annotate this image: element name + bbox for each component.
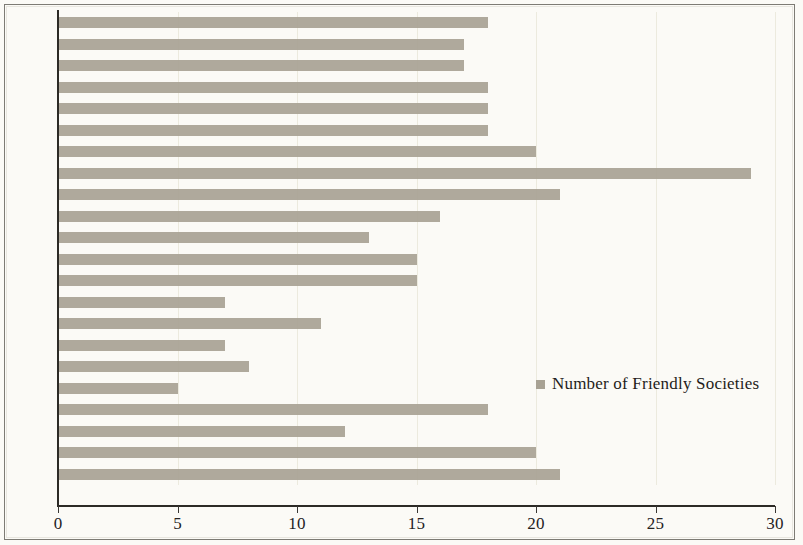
bar (58, 125, 488, 136)
bar-row: 1858 (58, 399, 767, 421)
bar (58, 39, 464, 50)
bar (58, 232, 369, 243)
bar-chart-figure: 1910190919081907190619051902189318921891… (0, 0, 803, 545)
bar-row: 1875 (58, 292, 767, 314)
x-tick-label: 20 (527, 514, 544, 534)
bar (58, 318, 321, 329)
bar (58, 469, 560, 480)
bar (58, 447, 536, 458)
bar (58, 254, 417, 265)
bar-row: 1908 (58, 55, 767, 77)
x-tick-label: 0 (54, 514, 63, 534)
bar (58, 17, 488, 28)
bar-row: 1890 (58, 227, 767, 249)
bar-row: 1854 (58, 464, 767, 486)
bar-row: 1909 (58, 34, 767, 56)
bar-row: 1910 (58, 12, 767, 34)
bar (58, 168, 751, 179)
bar-row: 1905 (58, 120, 767, 142)
legend-label: Number of Friendly Societies (552, 374, 759, 394)
x-tick-label: 30 (766, 514, 783, 534)
bar (58, 275, 417, 286)
bar-row: 1873 (58, 335, 767, 357)
bar-row: 1891 (58, 206, 767, 228)
bar-row: 1888 (58, 249, 767, 271)
y-axis-line (57, 10, 59, 506)
bar (58, 383, 178, 394)
legend: Number of Friendly Societies (536, 374, 759, 394)
bar-row: 1902 (58, 141, 767, 163)
bar (58, 340, 225, 351)
bar (58, 146, 536, 157)
x-tick-label: 5 (173, 514, 182, 534)
bar (58, 189, 560, 200)
bar (58, 103, 488, 114)
bar (58, 60, 464, 71)
bar-row: 1907 (58, 77, 767, 99)
bar (58, 297, 225, 308)
x-tick-mark (297, 506, 298, 513)
bar (58, 404, 488, 415)
bar (58, 361, 249, 372)
legend-swatch-icon (536, 380, 545, 389)
bar-row: 1887 (58, 270, 767, 292)
bar (58, 426, 345, 437)
plot-area: 1910190919081907190619051902189318921891… (58, 12, 767, 504)
x-tick-label: 15 (408, 514, 425, 534)
x-tick-label: 25 (647, 514, 664, 534)
x-tick-mark (178, 506, 179, 513)
bar (58, 211, 440, 222)
x-tick-mark (656, 506, 657, 513)
x-tick-label: 10 (288, 514, 305, 534)
x-tick-mark (536, 506, 537, 513)
x-tick-mark (417, 506, 418, 513)
x-tick-mark (775, 506, 776, 513)
bar-row: 1874 (58, 313, 767, 335)
gridline-30 (775, 12, 776, 485)
bar-row: 1906 (58, 98, 767, 120)
bar-row: 1893 (58, 163, 767, 185)
x-tick-mark (58, 506, 59, 513)
bar-row: 1892 (58, 184, 767, 206)
bar-row: 1855 (58, 442, 767, 464)
bar-row: 1856 (58, 421, 767, 443)
bar (58, 82, 488, 93)
